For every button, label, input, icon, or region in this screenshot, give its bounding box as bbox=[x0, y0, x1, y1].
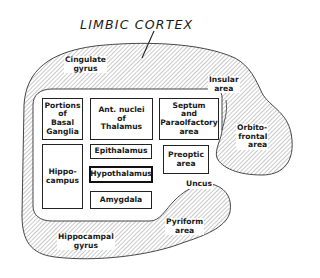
box-amygdala: Amygdala bbox=[90, 191, 152, 209]
box-epithalamus: Epithalamus bbox=[90, 144, 152, 159]
box-hypothalamus: Hypothalamus bbox=[89, 166, 153, 183]
diagram-title: LIMBIC CORTEX bbox=[80, 17, 193, 32]
label-pyriform-area: Pyriform area bbox=[165, 218, 204, 235]
label-hippocampal-gyrus: Hippocampal gyrus bbox=[57, 233, 115, 250]
label-orbitofrontal-area: Orbito- frontal area bbox=[236, 124, 268, 150]
box-hippocampus: Hippo- campus bbox=[42, 144, 83, 209]
label-insular-area: Insular area bbox=[208, 76, 240, 93]
box-ant-nuclei-thalamus: Ant. nuclei of Thalamus bbox=[90, 98, 153, 140]
label-uncus: Uncus bbox=[185, 180, 213, 189]
box-septum-paraolfactory: Septum and Paraolfactory area bbox=[159, 98, 219, 140]
box-basal-ganglia: Portions of Basal Ganglia bbox=[42, 98, 83, 140]
box-preoptic-area: Preoptic area bbox=[163, 145, 209, 174]
label-cingulate-gyrus: Cingulate gyrus bbox=[64, 56, 107, 73]
